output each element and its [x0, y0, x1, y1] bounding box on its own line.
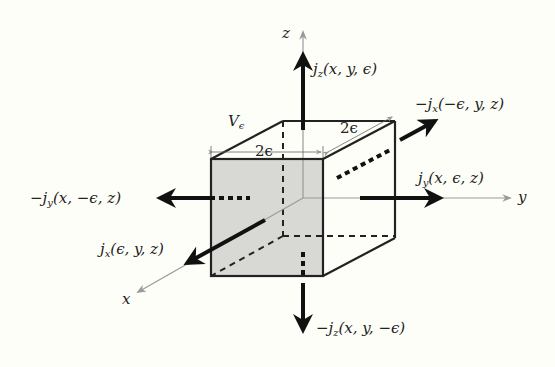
- flux-label-jx-front: jx(ϵ, y, z): [100, 242, 164, 259]
- flux-label-jz-bottom: −jz(x, y, −ϵ): [316, 321, 405, 338]
- flux-label-jx-back: −jx(−ϵ, y, z): [415, 97, 504, 114]
- cube-flux-diagram: z y x Vϵ 2ϵ 2ϵ jz(x, y, ϵ) −jx(−ϵ, y, z)…: [0, 0, 555, 367]
- z-axis-label: z: [282, 26, 290, 41]
- x-axis-label: x: [122, 292, 130, 307]
- cube-front-face: [211, 159, 323, 276]
- edge-label-front: 2ϵ: [255, 144, 273, 159]
- flux-label-jz-top: jz(x, y, ϵ): [313, 62, 377, 79]
- flux-label-jy-left: −jy(x, −ϵ, z): [30, 191, 121, 208]
- flux-label-jy-right: jy(x, ϵ, z): [418, 171, 484, 188]
- edge-label-depth: 2ϵ: [340, 121, 358, 136]
- arrow-jx-back: [400, 121, 435, 140]
- volume-label: Vϵ: [228, 114, 244, 131]
- y-axis-label: y: [518, 190, 526, 205]
